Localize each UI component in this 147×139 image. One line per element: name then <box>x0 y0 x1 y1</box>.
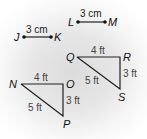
point-r-label: R <box>123 51 131 63</box>
point-n-label: N <box>9 78 17 90</box>
side-qs-length: 5 ft <box>85 75 99 86</box>
side-no-length: 4 ft <box>34 72 48 83</box>
point-j-label: J <box>13 31 20 43</box>
point-m-label: M <box>108 16 118 28</box>
triangle-nop: N O P 4 ft 3 ft 5 ft <box>9 72 80 130</box>
point-k-label: K <box>54 31 62 43</box>
side-np-length: 5 ft <box>28 102 42 113</box>
segment-jk-length: 3 cm <box>26 24 48 35</box>
side-qr-length: 4 ft <box>91 45 105 56</box>
point-q-label: Q <box>66 51 75 63</box>
congruence-diagram: L M 3 cm J K 3 cm Q R S 4 ft 3 ft 5 ft N… <box>0 0 147 139</box>
point-p-label: P <box>63 118 71 130</box>
point-o-label: O <box>66 78 75 90</box>
segment-jk: J K 3 cm <box>13 24 62 43</box>
side-op-length: 3 ft <box>66 95 80 106</box>
side-rs-length: 3 ft <box>123 68 137 79</box>
point-s-label: S <box>118 91 126 103</box>
point-l-label: L <box>68 16 74 28</box>
segment-lm-length: 3 cm <box>80 8 102 19</box>
segment-lm: L M 3 cm <box>68 8 118 28</box>
